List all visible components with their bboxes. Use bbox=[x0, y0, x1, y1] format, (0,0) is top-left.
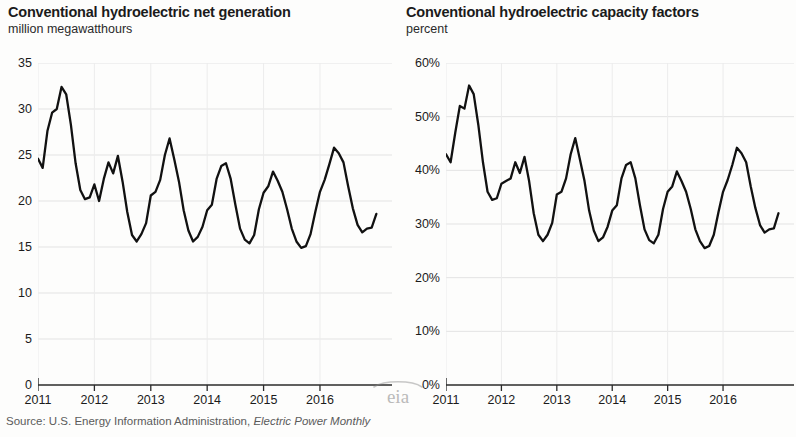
y-tick-label: 60% bbox=[398, 56, 440, 70]
panel-capacity-factors: Conventional hydroelectric capacity fact… bbox=[398, 0, 796, 410]
y-tick-label: 5 bbox=[0, 332, 32, 346]
y-tick-label: 10 bbox=[0, 286, 32, 300]
y-tick-label: 20% bbox=[398, 271, 440, 285]
y-axis-labels-right: 0%10%20%30%40%50%60% bbox=[398, 63, 440, 385]
y-tick-label: 40% bbox=[398, 163, 440, 177]
y-tick-label: 15 bbox=[0, 240, 32, 254]
y-tick-label: 10% bbox=[398, 324, 440, 338]
panel-net-generation: Conventional hydroelectric net generatio… bbox=[0, 0, 398, 410]
subtitle-right: percent bbox=[406, 22, 448, 36]
source-prefix: Source: U.S. Energy Information Administ… bbox=[6, 415, 253, 427]
page-title-right: Conventional hydroelectric capacity fact… bbox=[406, 4, 699, 20]
y-tick-label: 50% bbox=[398, 110, 440, 124]
svg-text:eia: eia bbox=[387, 386, 410, 407]
y-tick-label: 20 bbox=[0, 194, 32, 208]
source-publication: Electric Power Monthly bbox=[253, 415, 370, 427]
y-tick-label: 30 bbox=[0, 102, 32, 116]
y-tick-label: 0 bbox=[0, 378, 32, 392]
subtitle-left: million megawatthours bbox=[8, 22, 132, 36]
eia-watermark-logo: eia bbox=[368, 378, 428, 408]
page-title-left: Conventional hydroelectric net generatio… bbox=[8, 4, 291, 20]
y-tick-label: 25 bbox=[0, 148, 32, 162]
y-axis-labels-left: 05101520253035 bbox=[0, 63, 32, 385]
plot-area-left bbox=[38, 63, 396, 397]
y-tick-label: 35 bbox=[0, 56, 32, 70]
y-tick-label: 30% bbox=[398, 217, 440, 231]
plot-area-right bbox=[446, 63, 796, 397]
source-note: Source: U.S. Energy Information Administ… bbox=[6, 415, 370, 427]
chart-page: Conventional hydroelectric net generatio… bbox=[0, 0, 796, 437]
